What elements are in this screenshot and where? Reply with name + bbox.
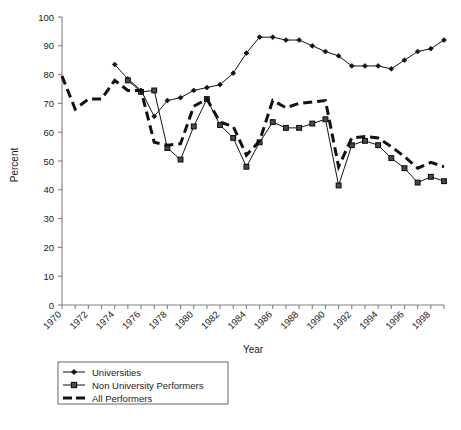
legend-label: All Performers	[92, 393, 152, 404]
y-tick-label: 40	[43, 184, 54, 195]
data-point-marker	[152, 88, 157, 93]
chart-legend: UniversitiesNon University PerformersAll…	[58, 362, 228, 404]
data-point-marker	[415, 180, 420, 185]
y-tick-labels: 0102030405060708090100	[38, 12, 54, 311]
figure-caption	[24, 418, 444, 430]
legend-label: Universities	[92, 367, 141, 378]
plot-background	[62, 17, 444, 305]
data-point-marker	[363, 138, 368, 143]
line-chart: 0102030405060708090100 19701972197419761…	[0, 0, 461, 412]
data-point-marker	[428, 174, 433, 179]
x-tick-label: 1972	[67, 309, 90, 332]
y-tick-label: 50	[43, 156, 54, 167]
legend-label: Non University Performers	[92, 380, 204, 391]
x-tick-label: 1994	[357, 309, 380, 332]
y-tick-label: 70	[43, 98, 54, 109]
data-point-marker	[284, 125, 289, 130]
data-point-marker	[402, 166, 407, 171]
x-tick-label: 1990	[304, 309, 327, 332]
x-tick-label: 1974	[93, 309, 116, 332]
data-point-marker	[323, 117, 328, 122]
y-tick-label: 90	[43, 40, 54, 51]
legend-marker-square	[71, 382, 76, 387]
data-point-marker	[442, 179, 447, 184]
x-tick-labels: 1970197219741976197819801982198419861988…	[41, 309, 433, 332]
data-point-marker	[231, 136, 236, 141]
data-point-marker	[310, 121, 315, 126]
data-point-marker	[389, 156, 394, 161]
x-tick-label: 1970	[41, 309, 64, 332]
x-tick-label: 1996	[383, 309, 406, 332]
x-tick-label: 1976	[120, 309, 143, 332]
x-tick-label: 1982	[199, 309, 222, 332]
x-tick-label: 1978	[146, 309, 169, 332]
data-point-marker	[125, 78, 130, 83]
y-axis-title: Percent	[9, 148, 20, 183]
y-tick-label: 100	[38, 12, 54, 23]
y-tick-label: 80	[43, 69, 54, 80]
data-point-marker	[244, 164, 249, 169]
data-point-marker	[191, 124, 196, 129]
data-point-marker	[178, 157, 183, 162]
y-tick-label: 30	[43, 213, 54, 224]
data-point-marker	[297, 125, 302, 130]
x-tick-label: 1988	[278, 309, 301, 332]
y-tick-label: 10	[43, 271, 54, 282]
data-point-marker	[270, 120, 275, 125]
y-tick-label: 20	[43, 242, 54, 253]
x-tick-label: 1984	[225, 309, 248, 332]
x-tick-label: 1980	[172, 309, 195, 332]
x-tick-label: 1986	[251, 309, 274, 332]
data-point-marker	[336, 183, 341, 188]
x-axis-title: Year	[243, 344, 264, 355]
y-tick-label: 0	[49, 300, 54, 311]
x-tick-label: 1992	[330, 309, 353, 332]
chart-figure: 0102030405060708090100 19701972197419761…	[0, 0, 461, 430]
y-tick-label: 60	[43, 127, 54, 138]
data-point-marker	[376, 143, 381, 148]
x-tick-label: 1998	[410, 309, 433, 332]
